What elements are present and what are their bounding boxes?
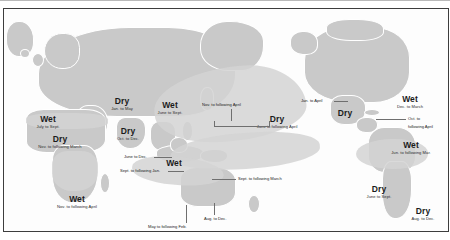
annotation-australia: Aug. to Dec. [204, 217, 227, 221]
season-label-africa-south: Wet Nov. to following April [44, 195, 110, 209]
annotation-south-indian: Sept. to following March [238, 177, 282, 181]
season-keyword: Wet [382, 95, 438, 104]
land-cuba [364, 109, 380, 116]
leader-australia [214, 203, 215, 215]
season-keyword: Wet [44, 195, 110, 204]
season-period: Jun. to following Mar. [378, 151, 444, 155]
season-label-india: Dry Oct. to Dec. [106, 127, 150, 141]
season-keyword: Dry [28, 135, 92, 144]
season-period: June to Sept. [356, 195, 402, 199]
season-keyword: Wet [378, 141, 444, 150]
annotation-east-pacific: Jan. to April [301, 99, 322, 103]
season-keyword: Dry [106, 127, 150, 136]
land-siberia-east [200, 21, 264, 71]
leader-indian-2 [168, 171, 184, 172]
land-madagascar [100, 173, 110, 193]
annotation-indian-2: Sept. to following Jan. [120, 169, 160, 173]
map-plate: Wet July to Sept. Dry Nov. to following … [3, 8, 449, 232]
leader-gulf [376, 119, 406, 120]
top-divider [0, 0, 450, 1]
season-period: Nov. to following April [44, 205, 110, 209]
leader-east-pacific [334, 101, 348, 102]
season-label-east-asia: Wet June to Sept. [144, 101, 196, 115]
season-label-africa-north: Wet July to Sept. [26, 115, 70, 129]
season-label-north-america-east: Wet Dec. to March [382, 95, 438, 109]
season-period: Aug. to Dec. [400, 217, 446, 221]
annotation-indian-1: June to Dec. [124, 155, 147, 159]
season-period: Dec. to March [382, 105, 438, 109]
season-label-central-asia: Dry Jan. to May [100, 97, 144, 111]
season-label-africa-central: Dry Nov. to following March [28, 135, 92, 149]
season-label-south-america-east: Dry Aug. to Dec. [400, 207, 446, 221]
leader-north-pacific-bracket [214, 121, 270, 127]
season-label-north-america-west: Dry [330, 109, 360, 119]
land-iceland [20, 49, 30, 58]
land-scandinavia [44, 33, 80, 69]
season-keyword: Wet [26, 115, 70, 124]
season-keyword: Wet [144, 101, 196, 110]
leader-north-pacific-stem [231, 109, 232, 121]
annotation-gulf-line1: Oct. to [408, 117, 420, 121]
season-period: Jan. to May [100, 107, 144, 111]
land-new-zealand [248, 195, 260, 213]
leader-indian-1 [154, 157, 172, 158]
land-canadian-arctic [326, 19, 384, 41]
annotation-north-pacific: Nov. to following April [202, 103, 241, 107]
season-period: Oct. to Dec. [106, 137, 150, 141]
season-period: June to Sept. [144, 111, 196, 115]
annotation-gulf-line2: following April [408, 125, 433, 129]
season-keyword: Dry [400, 207, 446, 216]
season-label-south-america-west: Dry June to Sept. [356, 185, 402, 199]
season-period: Nov. to following March [28, 145, 92, 149]
seasonal-world-map-figure: Wet July to Sept. Dry Nov. to following … [0, 0, 450, 240]
band-southern-africa [52, 151, 98, 191]
season-keyword: Wet [156, 159, 192, 168]
land-alaska [290, 31, 318, 55]
season-keyword: Dry [100, 97, 144, 106]
season-period: July to Sept. [26, 125, 70, 129]
leader-south-indian [212, 179, 236, 180]
season-label-caribbean: Wet Jun. to following Mar. [378, 141, 444, 155]
season-keyword: Dry [356, 185, 402, 194]
annotation-java: May to following Feb. [148, 225, 187, 229]
season-label-maritime-asia: Wet [156, 159, 192, 169]
land-british-isles [32, 53, 44, 67]
season-keyword: Dry [330, 109, 360, 118]
leader-java [186, 205, 187, 223]
